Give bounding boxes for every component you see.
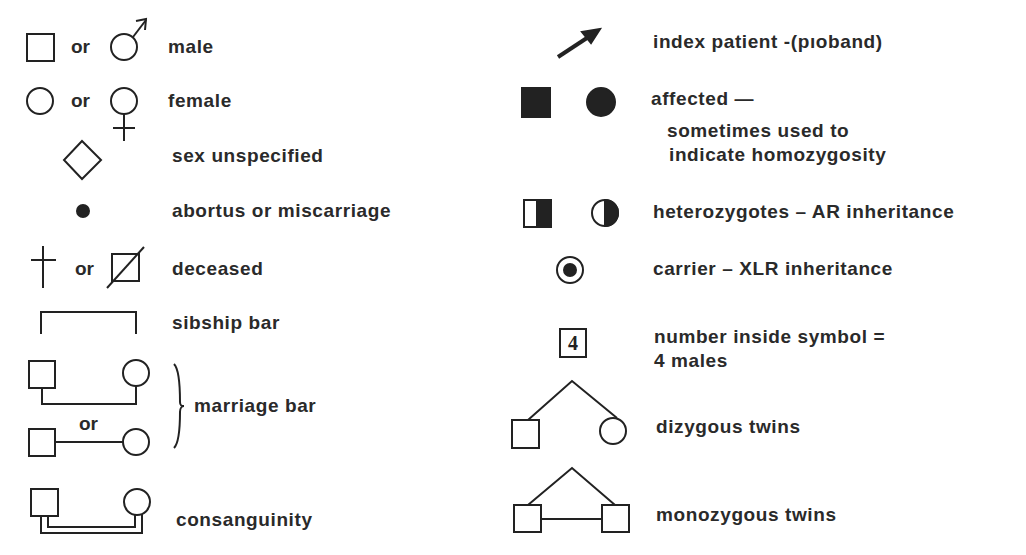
female-circle-icon <box>26 87 56 117</box>
male-square-icon <box>26 33 56 63</box>
or-text: or <box>75 258 94 280</box>
legend-sublabel: sometimes used to <box>667 120 849 142</box>
male-symbol-icon <box>110 15 150 65</box>
marriage-bar-icon <box>28 358 153 458</box>
half-filled-circle-icon <box>591 199 621 229</box>
affected-circle-icon <box>586 87 618 119</box>
or-text: or <box>71 36 90 58</box>
small-dot-icon <box>75 203 91 219</box>
numbered-square-icon: 4 <box>559 328 587 358</box>
legend-sublabel: 4 males <box>654 350 728 372</box>
female-symbol-icon <box>110 87 140 143</box>
diamond-icon <box>63 140 103 180</box>
or-text: or <box>71 90 90 112</box>
legend-sublabel: indicate homozygosity <box>669 144 886 166</box>
legend-label: heterozygotes – AR inheritance <box>653 201 954 223</box>
legend-label: marriage bar <box>194 395 316 417</box>
sibship-bar-icon <box>40 310 140 336</box>
legend-label: consanguinity <box>176 509 313 531</box>
deceased-square-icon <box>106 246 146 290</box>
legend-label: carrier – XLR inheritance <box>653 258 893 280</box>
legend-label: sex unspecified <box>172 145 324 167</box>
consanguinity-icon <box>30 487 155 537</box>
legend-label: monozygous twins <box>656 504 837 526</box>
legend-label: male <box>168 36 214 58</box>
legend-label: number inside symbol = <box>654 326 885 348</box>
legend-label: deceased <box>172 258 263 280</box>
legend-label: index patient -(pıoband) <box>653 31 883 53</box>
or-text: or <box>79 413 98 435</box>
legend-label: sibship bar <box>172 312 280 334</box>
legend-label: female <box>168 90 232 112</box>
arrow-icon <box>555 26 603 60</box>
dizygous-twins-icon <box>510 380 635 450</box>
legend-label: dizygous twins <box>656 416 801 438</box>
half-filled-square-icon <box>523 199 553 229</box>
symbol-number: 4 <box>568 332 578 354</box>
legend-label: abortus or miscarriage <box>172 200 391 222</box>
carrier-dot-circle-icon <box>556 256 586 286</box>
affected-square-icon <box>522 88 552 118</box>
legend-label: affected — <box>651 88 754 110</box>
monozygous-twins-icon <box>512 465 637 535</box>
brace-icon <box>172 362 186 450</box>
cross-icon <box>30 246 58 290</box>
